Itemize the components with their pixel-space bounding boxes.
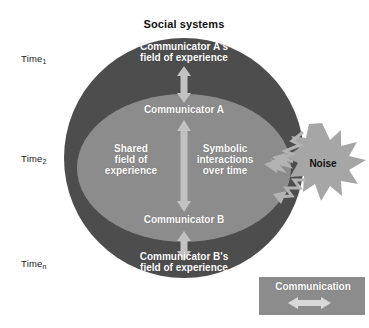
- time-label-2-sub: 2: [43, 158, 47, 165]
- legend-label: Communication: [261, 281, 365, 292]
- communicator-b-field-label: Communicator B's field of experience: [98, 251, 270, 273]
- time-label-n: Timen: [21, 258, 47, 269]
- time-label-2: Time2: [21, 153, 47, 164]
- time-label-1-base: Time: [21, 53, 43, 64]
- time-label-1-sub: 1: [43, 58, 47, 65]
- noise-label: Noise: [294, 158, 352, 169]
- symbolic-interactions-label: Symbolic interactions over time: [183, 143, 267, 177]
- page-title: Social systems: [104, 18, 264, 30]
- time-label-n-sub: n: [43, 263, 47, 270]
- time-label-2-base: Time: [21, 153, 43, 164]
- time-label-1: Time1: [21, 53, 47, 64]
- diagram-canvas: Social systems Time1 Time2 Timen Communi…: [0, 0, 369, 328]
- time-label-n-base: Time: [21, 258, 43, 269]
- communicator-a-label: Communicator A: [98, 104, 270, 115]
- communicator-b-label: Communicator B: [98, 214, 270, 225]
- communicator-a-field-label: Communicator A's field of experience: [98, 41, 270, 63]
- shared-field-label: Shared field of experience: [92, 143, 170, 177]
